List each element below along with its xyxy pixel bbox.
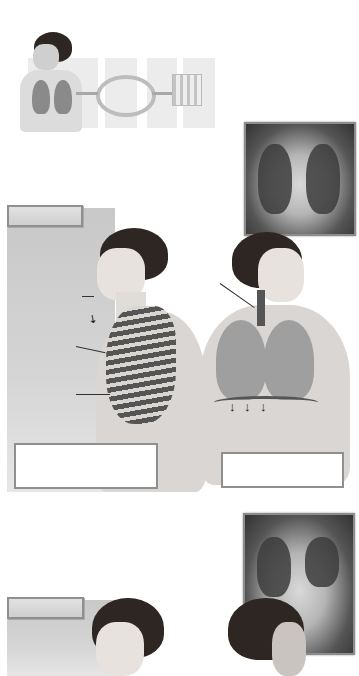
overview-person-face: [33, 44, 59, 70]
overview-tissue-cells: [172, 74, 202, 106]
overview-lung-left: [32, 80, 50, 114]
rib-cage-illustration: [106, 306, 176, 424]
xray-left-lung: [258, 144, 292, 214]
overview-figure: [0, 30, 220, 160]
exhalation-front-person-face: [272, 622, 306, 676]
caption-lungs-expand: [221, 452, 344, 488]
diaphragm-arrow-1: ↓: [229, 399, 236, 415]
overview-person-torso: [20, 70, 82, 132]
xray-exhalation-right-lung: [305, 537, 339, 587]
overview-connector-arrow-left: [76, 92, 98, 95]
diaphragm-arrow-3: ↓: [260, 399, 267, 415]
air-flow-leader-line: [220, 283, 255, 308]
front-left-lung: [216, 320, 266, 400]
xray-inhalation: [244, 122, 356, 236]
overview-connector-arrow-right: [152, 92, 174, 95]
overview-circulation-loop: [96, 75, 156, 117]
diaphragm-arrow-2: ↓: [244, 399, 251, 415]
rib-cage-leader-line: [82, 296, 94, 297]
xray-right-lung: [306, 144, 340, 214]
caption-chest-cavity: [14, 443, 158, 489]
page-header: [0, 2, 359, 22]
exhalation-label: [7, 597, 84, 619]
xray-exhalation-left-lung: [257, 537, 291, 597]
trachea: [257, 290, 265, 326]
diaphragm-leader-line: [76, 394, 110, 395]
front-right-lung: [264, 320, 314, 400]
exhalation-side-person-face: [96, 622, 144, 676]
inhalation-label: [7, 205, 83, 227]
overview-lung-right: [54, 80, 72, 114]
